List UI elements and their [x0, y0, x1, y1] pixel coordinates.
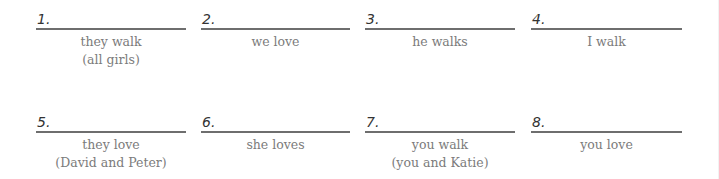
prompt-text: I walk: [531, 33, 682, 51]
item-prompt: I walk: [531, 33, 682, 51]
item-prompt: he walks: [365, 33, 515, 51]
prompt-note: (you and Katie): [365, 154, 515, 172]
prompt-text: she loves: [201, 136, 350, 154]
item-number: 3.: [366, 11, 379, 27]
prompt-text: they love: [36, 136, 186, 154]
prompt-text: he walks: [365, 33, 515, 51]
item-number: 8.: [532, 114, 545, 130]
item-prompt: you love: [531, 136, 682, 154]
prompt-text: you walk: [365, 136, 515, 154]
prompt-text: we love: [201, 33, 350, 51]
prompt-text: you love: [531, 136, 682, 154]
item-prompt: she loves: [201, 136, 350, 154]
item-number: 7.: [366, 114, 379, 130]
item-prompt: you walk (you and Katie): [365, 136, 515, 172]
answer-line[interactable]: [36, 131, 186, 133]
item-number: 2.: [202, 11, 215, 27]
item-prompt: they love (David and Peter): [36, 136, 186, 172]
answer-line[interactable]: [365, 131, 515, 133]
answer-line[interactable]: [36, 28, 186, 30]
answer-line[interactable]: [531, 131, 682, 133]
prompt-note: (all girls): [36, 51, 186, 69]
item-number: 1.: [37, 11, 50, 27]
answer-line[interactable]: [201, 28, 350, 30]
item-number: 5.: [37, 114, 50, 130]
item-prompt: they walk (all girls): [36, 33, 186, 69]
item-prompt: we love: [201, 33, 350, 51]
prompt-note: (David and Peter): [36, 154, 186, 172]
item-number: 4.: [532, 11, 545, 27]
answer-line[interactable]: [531, 28, 682, 30]
prompt-text: they walk: [36, 33, 186, 51]
item-number: 6.: [202, 114, 215, 130]
answer-line[interactable]: [365, 28, 515, 30]
answer-line[interactable]: [201, 131, 350, 133]
